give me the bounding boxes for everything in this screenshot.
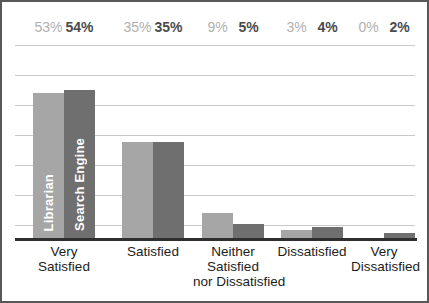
category-line: Satisfied	[193, 259, 273, 274]
bar-librarian[interactable]: Librarian	[33, 93, 64, 239]
category-labels: Very Satisfied Satisfied Neither Satisfi…	[15, 244, 417, 289]
chart-container: 53% Librarian 54% Search Engine 35% 35%	[0, 0, 429, 303]
bar-group-dissatisfied: 3% 4%	[273, 38, 351, 239]
bar-slot: 4%	[312, 38, 343, 239]
bar-search-engine[interactable]	[233, 224, 264, 239]
bar-series-name-search-engine: Search Engine	[64, 138, 95, 231]
bar-value-label: 35%	[154, 19, 182, 35]
bar-slot: 5%	[233, 38, 264, 239]
bar-librarian[interactable]	[122, 142, 153, 239]
bar-group-neither: 9% 5%	[193, 38, 273, 239]
bar-group-very-dissatisfied: 0% 2%	[351, 38, 417, 239]
bar-value-label: 54%	[65, 19, 93, 35]
bar-group-satisfied: 35% 35%	[113, 38, 193, 239]
bar-slot: 35%	[153, 38, 184, 239]
bar-slot: 54% Search Engine	[64, 38, 95, 239]
bar-slot: 53% Librarian	[33, 38, 64, 239]
category-line: Neither	[193, 244, 273, 259]
bar-value-label: 2%	[389, 19, 409, 35]
category-label-dissatisfied: Dissatisfied	[273, 244, 351, 289]
category-line: Satisfied	[15, 259, 113, 274]
bar-groups: 53% Librarian 54% Search Engine 35% 35%	[15, 38, 417, 239]
category-line: nor Dissatisfied	[193, 274, 273, 289]
bar-value-label: 3%	[286, 19, 306, 35]
bar-value-label: 35%	[123, 19, 151, 35]
bar-slot: 2%	[384, 38, 415, 239]
bar-slot: 9%	[202, 38, 233, 239]
category-line: Satisfied	[113, 244, 193, 259]
category-line: Dissatisfied	[351, 259, 417, 274]
bar-value-label: 9%	[207, 19, 227, 35]
category-label-very-dissatisfied: Very Dissatisfied	[351, 244, 417, 289]
bar-slot: 35%	[122, 38, 153, 239]
bar-value-label: 0%	[358, 19, 378, 35]
category-label-neither: Neither Satisfied nor Dissatisfied	[193, 244, 273, 289]
bar-value-label: 53%	[34, 19, 62, 35]
category-line: Dissatisfied	[273, 244, 351, 259]
category-label-satisfied: Satisfied	[113, 244, 193, 289]
category-label-very-satisfied: Very Satisfied	[15, 244, 113, 289]
bar-slot: 0%	[353, 38, 384, 239]
bar-value-label: 4%	[317, 19, 337, 35]
bar-search-engine[interactable]: Search Engine	[64, 90, 95, 239]
bar-value-label: 5%	[238, 19, 258, 35]
bar-group-very-satisfied: 53% Librarian 54% Search Engine	[15, 38, 113, 239]
x-axis-line	[15, 238, 417, 241]
category-line: Very	[351, 244, 417, 259]
bar-slot: 3%	[281, 38, 312, 239]
bar-search-engine[interactable]	[153, 142, 184, 239]
bar-librarian[interactable]	[202, 213, 233, 239]
category-line: Very	[15, 244, 113, 259]
bar-series-name-librarian: Librarian	[33, 174, 64, 231]
